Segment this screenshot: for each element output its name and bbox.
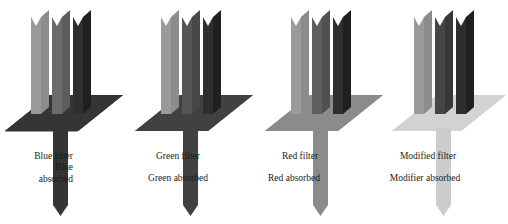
blade-red-1-side <box>301 10 309 114</box>
label-blue-line3: absorbed <box>39 174 74 184</box>
label-modified-filter: Modified filter <box>400 151 457 161</box>
stem-red <box>313 128 328 216</box>
label-red-absorbed: Red absorbed <box>268 173 320 183</box>
blade-red-2 <box>312 17 322 114</box>
blade-red-2-side <box>322 10 330 114</box>
blade-modified-2-side <box>445 10 453 114</box>
blade-modified-2 <box>435 17 445 114</box>
blade-modified-3 <box>456 17 466 114</box>
stem-green <box>183 128 198 216</box>
blade-blue-1-side <box>41 10 49 114</box>
stem-blue <box>53 128 68 216</box>
blade-blue-2-side <box>62 10 70 114</box>
figure-canvas: Blue filter Blue absorbed Green filter G… <box>0 0 508 224</box>
blade-blue-3-side <box>83 10 91 114</box>
blade-red-3 <box>333 17 343 114</box>
blade-red-3-side <box>343 10 351 114</box>
blade-red-1 <box>291 17 301 114</box>
blade-green-2-side <box>192 10 200 114</box>
label-green-filter: Green filter <box>156 151 201 161</box>
label-modifier-absorbed: Modifier absorbed <box>390 173 461 183</box>
blade-green-3-side <box>213 10 221 114</box>
blade-modified-3-side <box>466 10 474 114</box>
filter-diagram-svg: Blue filter Blue absorbed Green filter G… <box>0 0 508 224</box>
blade-blue-2 <box>52 17 62 114</box>
blade-modified-1 <box>414 17 424 114</box>
blade-blue-1 <box>31 17 41 114</box>
blade-green-3 <box>203 17 213 114</box>
blade-green-1-side <box>171 10 179 114</box>
blade-modified-1-side <box>424 10 432 114</box>
label-blue-line2: Blue <box>55 162 73 172</box>
stem-modified <box>436 128 451 216</box>
label-blue-filter: Blue filter <box>34 151 74 161</box>
blade-green-2 <box>182 17 192 114</box>
blade-blue-3 <box>73 17 83 114</box>
label-green-absorbed: Green absorbed <box>148 173 208 183</box>
blade-green-1 <box>161 17 171 114</box>
label-red-filter: Red filter <box>282 151 319 161</box>
